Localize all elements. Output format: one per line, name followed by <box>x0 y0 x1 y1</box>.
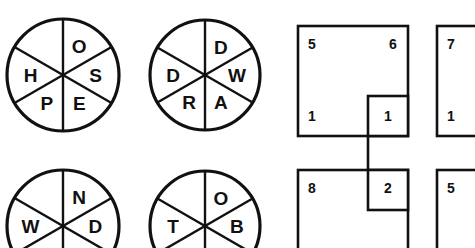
grid-number: 1 <box>447 108 455 124</box>
grid-number: 6 <box>389 36 397 52</box>
number-grid-canvas: 567111825 <box>0 0 475 248</box>
grid-box <box>437 26 475 136</box>
number-grid-section: 567111825 <box>0 0 475 248</box>
worksheet-page: OSEPHDWARDNDWOBT 567111825 <box>0 0 475 248</box>
grid-number: 1 <box>308 108 316 124</box>
grid-group: 567111825 <box>298 26 475 248</box>
grid-number: 5 <box>447 180 455 196</box>
grid-number: 7 <box>447 36 455 52</box>
grid-box <box>437 170 475 248</box>
grid-number: 8 <box>308 180 316 196</box>
grid-number: 5 <box>308 36 316 52</box>
grid-number: 1 <box>384 108 392 124</box>
grid-number: 2 <box>384 180 392 196</box>
